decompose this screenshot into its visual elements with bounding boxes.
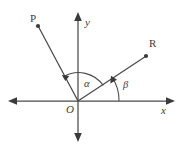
alpha-arc-arrowhead [62,75,70,81]
beta-angle-label: β [123,80,128,91]
y-axis-top-arrowhead [74,12,82,21]
origin-label: O [66,104,74,115]
geometry-figure: P R y x O α β [0,0,185,149]
point-p-dot [36,24,40,28]
y-axis-bottom-arrowhead [74,133,82,142]
point-r-label: R [149,38,156,49]
alpha-angle-label: α [84,79,90,90]
ray-op-line [39,27,79,101]
x-axis-left-arrowhead [8,97,17,105]
y-axis-label: y [85,17,90,28]
point-p-label: P [30,13,36,24]
figure-canvas [0,0,185,149]
x-axis-label: x [161,105,166,116]
point-r-dot [144,54,148,58]
x-axis-right-arrowhead [166,97,175,105]
